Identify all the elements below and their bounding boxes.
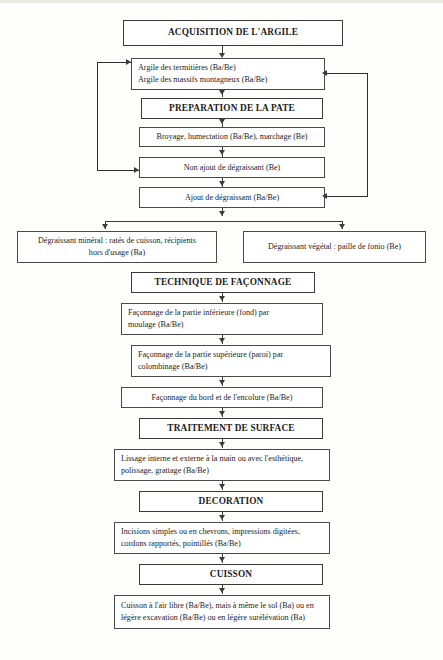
node-degraissant-vegetal-line1: Dégraissant végétal : paille de fonio (B… bbox=[268, 241, 401, 253]
node-decoration: DECORATION bbox=[139, 491, 323, 512]
connector-split-distribution-bar bbox=[105, 221, 342, 222]
arrowhead-inferieure-to-superieure bbox=[219, 338, 225, 343]
arrowhead-loop-right-to-ajout bbox=[322, 193, 327, 199]
node-technique-faconnage-label: TECHNIQUE DE FAÇONNAGE bbox=[155, 276, 292, 289]
node-faconnage-superieure: Façonnage de la partie supérieure (paroi… bbox=[131, 345, 331, 377]
arrowhead-split-to-vegetal bbox=[339, 224, 345, 229]
arrowhead-loop-left-to-argile bbox=[126, 59, 131, 65]
arrowhead-loop-left-to-non-ajout bbox=[134, 167, 139, 173]
node-broyage: Broyage, humectation (Ba/Be), marchage (… bbox=[139, 127, 325, 147]
node-faconnage-inferieure-line1: Façonnage de la partie inférieure (fond)… bbox=[128, 307, 269, 319]
node-faconnage-superieure-line1: Façonnage de la partie supérieure (paroi… bbox=[138, 349, 283, 361]
arrowhead-lissage-to-decoration bbox=[219, 484, 225, 489]
arrowhead-ajout-split-stem bbox=[219, 211, 225, 216]
arrowhead-superieure-to-bord bbox=[219, 380, 225, 385]
arrowhead-technique-to-inferieure bbox=[219, 296, 225, 301]
node-cuisson-detail: Cuisson à l'air libre (Ba/Be), mais à mê… bbox=[114, 595, 330, 629]
arrowhead-loop-right-to-argile bbox=[322, 70, 327, 76]
node-incisions: Incisions simples ou en chevrons, impres… bbox=[114, 522, 330, 554]
node-lissage: Lissage interne et externe à la main ou … bbox=[114, 449, 330, 481]
node-faconnage-superieure-line2: colombinage (Ba/Be) bbox=[138, 361, 207, 373]
arrowhead-traitement-to-lissage bbox=[219, 442, 225, 447]
arrowhead-cuisson-to-detail bbox=[219, 588, 225, 593]
node-cuisson: CUISSON bbox=[139, 564, 323, 585]
node-argile-sources: Argile des termitières (Ba/Be) Argile de… bbox=[131, 58, 325, 90]
node-non-ajout-degraissant: Non ajout de dégraissant (Be) bbox=[139, 157, 325, 178]
node-degraissant-mineral-line1: Dégraissant minéral : ratés de cuisson, … bbox=[38, 235, 196, 247]
arrowhead-incisions-to-cuisson bbox=[219, 557, 225, 562]
node-non-ajout-degraissant-line1: Non ajout de dégraissant (Be) bbox=[184, 162, 281, 174]
node-traitement-surface-label: TRAITEMENT DE SURFACE bbox=[167, 422, 294, 435]
node-acquisition-label: ACQUISITION DE L'ARGILE bbox=[168, 26, 298, 39]
arrowhead-broyage-to-non-ajout bbox=[219, 150, 225, 155]
node-preparation-label: PREPARATION DE LA PATE bbox=[169, 102, 295, 115]
node-ajout-degraissant: Ajout de dégraissant (Ba/Be) bbox=[139, 187, 325, 208]
node-cuisson-detail-line2: légère excavation (Ba/Be) ou en légère s… bbox=[121, 612, 305, 624]
node-ajout-degraissant-line1: Ajout de dégraissant (Ba/Be) bbox=[185, 192, 279, 204]
node-argile-sources-line1: Argile des termitières (Ba/Be) bbox=[138, 62, 236, 74]
loop-left-bottom-segment bbox=[97, 170, 139, 171]
node-cuisson-label: CUISSON bbox=[210, 568, 252, 581]
arrowhead-argile-to-preparation bbox=[219, 90, 225, 95]
page-top-edge bbox=[0, 0, 443, 3]
loop-right-bottom-segment bbox=[325, 196, 368, 197]
arrowhead-decoration-to-incisions bbox=[219, 515, 225, 520]
arrowhead-bord-to-traitement bbox=[219, 411, 225, 416]
node-cuisson-detail-line1: Cuisson à l'air libre (Ba/Be), mais à mê… bbox=[121, 600, 314, 612]
node-faconnage-bord: Façonnage du bord et de l'encolure (Ba/B… bbox=[121, 387, 323, 408]
node-broyage-line1: Broyage, humectation (Ba/Be), marchage (… bbox=[156, 131, 307, 143]
loop-right-vertical-segment bbox=[367, 73, 368, 197]
flowchart-canvas: ACQUISITION DE L'ARGILE Argile des termi… bbox=[0, 0, 443, 660]
node-faconnage-inferieure: Façonnage de la partie inférieure (fond)… bbox=[121, 303, 323, 335]
node-acquisition: ACQUISITION DE L'ARGILE bbox=[123, 20, 343, 46]
arrowhead-preparation-to-broyage bbox=[219, 119, 225, 124]
node-faconnage-inferieure-line2: moulage (Ba/Be) bbox=[128, 319, 184, 331]
node-lissage-line1: Lissage interne et externe à la main ou … bbox=[121, 453, 303, 465]
node-argile-sources-line2: Argile des massifs montagneux (Ba/Be) bbox=[138, 74, 267, 86]
arrowhead-split-to-mineral bbox=[102, 224, 108, 229]
node-lissage-line2: polissage, grattage (Ba/Be) bbox=[121, 465, 209, 477]
arrowhead-non-ajout-to-ajout bbox=[219, 181, 225, 186]
node-faconnage-bord-line1: Façonnage du bord et de l'encolure (Ba/B… bbox=[152, 392, 293, 404]
node-decoration-label: DECORATION bbox=[199, 495, 264, 508]
node-technique-faconnage: TECHNIQUE DE FAÇONNAGE bbox=[131, 272, 315, 293]
node-degraissant-vegetal: Dégraissant végétal : paille de fonio (B… bbox=[243, 231, 426, 263]
node-incisions-line2: cordons rapportés, pointillés (Ba/Be) bbox=[121, 538, 241, 550]
node-preparation: PREPARATION DE LA PATE bbox=[141, 98, 323, 119]
node-incisions-line1: Incisions simples ou en chevrons, impres… bbox=[121, 526, 300, 538]
loop-right-top-segment bbox=[325, 73, 368, 74]
node-degraissant-mineral: Dégraissant minéral : ratés de cuisson, … bbox=[17, 231, 217, 263]
node-degraissant-mineral-line2: hors d'usage (Ba) bbox=[89, 247, 145, 259]
node-traitement-surface: TRAITEMENT DE SURFACE bbox=[139, 418, 323, 439]
loop-left-vertical-segment bbox=[97, 62, 98, 171]
